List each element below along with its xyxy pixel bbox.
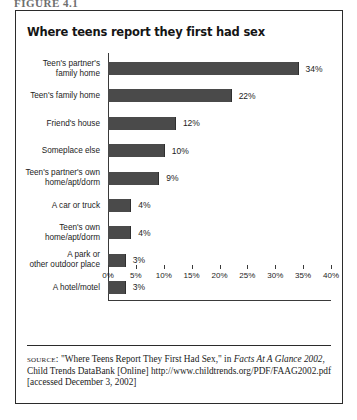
figure-caption: FIGURE 4.1: [14, 0, 134, 8]
category-label: A car or truck: [52, 201, 100, 211]
tick-mark: [275, 265, 276, 269]
bar-value-label: 10%: [172, 146, 189, 156]
bar: [108, 199, 131, 212]
tick-mark: [136, 265, 137, 269]
bar-row: 12%: [108, 117, 331, 130]
category-axis-labels: Teen's partner'sfamily homeTeen's family…: [16, 55, 104, 301]
category-label: Teen's ownhome/apt/dorm: [45, 223, 100, 242]
tick-label: 25%: [239, 271, 255, 280]
category-label: Teen's family home: [30, 91, 100, 101]
bar-value-label: 34%: [306, 64, 323, 74]
tick-mark: [108, 265, 109, 269]
bar-row: 10%: [108, 144, 331, 157]
bar-value-label: 3%: [133, 255, 145, 265]
figure-page: FIGURE 4.1 Where teens report they first…: [0, 0, 357, 420]
value-axis-ticks: 0%5%10%15%20%25%30%35%40%: [108, 265, 331, 301]
bar-value-label: 12%: [183, 118, 200, 128]
tick-label: 0%: [102, 271, 114, 280]
bar-value-label: 9%: [166, 173, 178, 183]
tick-mark: [192, 265, 193, 269]
chart-frame: Where teens report they first had sex Te…: [15, 10, 343, 404]
tick-mark: [247, 265, 248, 269]
bar: [108, 62, 299, 75]
bar: [108, 144, 165, 157]
tick-mark: [164, 265, 165, 269]
tick-label: 10%: [156, 271, 172, 280]
bar-value-label: 4%: [138, 228, 150, 238]
plot-area: 34%22%12%10%9%4%4%3%3% 0%5%10%15%20%25%3…: [108, 55, 331, 301]
source-divider: [27, 345, 331, 346]
category-label: Teen's partner'sfamily home: [43, 59, 100, 78]
source-publication: Facts At A Glance 2002: [234, 354, 323, 364]
tick-label: 5%: [130, 271, 142, 280]
bar-row: 4%: [108, 226, 331, 239]
category-label: Someplace else: [42, 146, 100, 156]
tick-mark: [331, 265, 332, 269]
tick-label: 30%: [267, 271, 283, 280]
category-label: A park orother outdoor place: [29, 250, 100, 269]
bar-row: 34%: [108, 62, 331, 75]
tick-label: 15%: [184, 271, 200, 280]
chart-title: Where teens report they first had sex: [27, 25, 265, 39]
category-label: A hotel/motel: [53, 283, 100, 293]
bar-value-label: 22%: [239, 91, 256, 101]
source-label: source:: [27, 353, 59, 364]
tick-label: 40%: [323, 271, 339, 280]
tick-mark: [220, 265, 221, 269]
bar-row: 22%: [108, 89, 331, 102]
bar: [108, 117, 176, 130]
bar: [108, 226, 131, 239]
bar-row: 4%: [108, 199, 331, 212]
tick-label: 35%: [295, 271, 311, 280]
category-label: Friend's house: [47, 119, 100, 129]
tick-label: 20%: [211, 271, 227, 280]
category-label: Teen's partner's ownhome/apt/dorm: [25, 168, 100, 187]
bar-value-label: 4%: [138, 200, 150, 210]
bar: [108, 172, 159, 185]
source-note: source: "Where Teens Report They First H…: [27, 353, 332, 389]
bar-chart: Teen's partner'sfamily homeTeen's family…: [16, 49, 342, 337]
bar: [108, 89, 232, 102]
bar-row: 9%: [108, 172, 331, 185]
source-text-1: "Where Teens Report They First Had Sex,"…: [59, 354, 234, 364]
tick-mark: [303, 265, 304, 269]
